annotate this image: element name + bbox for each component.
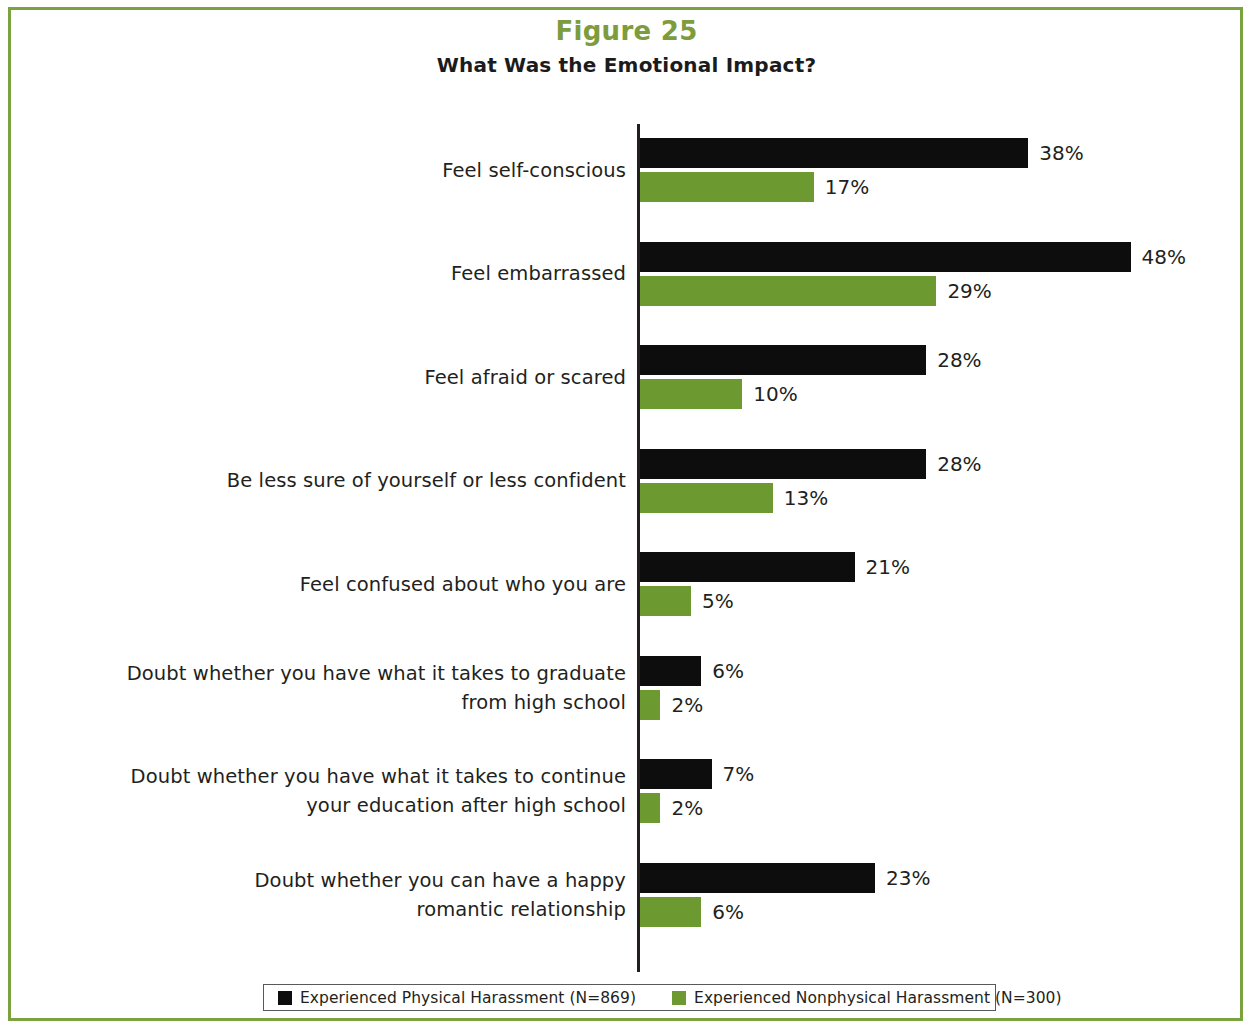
bar-value-label: 6% [712, 897, 744, 927]
bar-value-label: 21% [866, 552, 910, 582]
chart-legend: Experienced Physical Harassment (N=869) … [263, 984, 996, 1011]
bar-value-label: 28% [937, 345, 981, 375]
legend-label-physical: Experienced Physical Harassment (N=869) [300, 989, 636, 1007]
bar-group: Be less sure of yourself or less confide… [0, 448, 1253, 514]
bar-pair: 28%13% [640, 448, 1250, 514]
legend-item-nonphysical-harassment: Experienced Nonphysical Harassment (N=30… [672, 989, 1062, 1007]
bar-value-label: 48% [1142, 242, 1186, 272]
bar-group: Feel afraid or scared28%10% [0, 344, 1253, 410]
bar-physical: 6% [640, 656, 1250, 686]
bar-rect [640, 656, 701, 686]
bar-pair: 21%5% [640, 551, 1250, 617]
bar-rect [640, 242, 1131, 272]
bar-nonphysical: 2% [640, 690, 1250, 720]
bar-group: Doubt whether you have what it takes to … [0, 758, 1253, 824]
bar-group: Feel self-conscious38%17% [0, 137, 1253, 203]
bar-chart-plot-area: Feel self-conscious38%17%Feel embarrasse… [0, 0, 1253, 1031]
bar-rect [640, 379, 742, 409]
category-label-line: Feel embarrassed [451, 259, 626, 288]
bar-physical: 28% [640, 449, 1250, 479]
bar-nonphysical: 13% [640, 483, 1250, 513]
bar-rect [640, 897, 701, 927]
category-label: Feel embarrassed [106, 241, 626, 307]
bar-value-label: 2% [671, 690, 703, 720]
category-label: Feel self-conscious [106, 137, 626, 203]
bar-physical: 48% [640, 242, 1250, 272]
bar-rect [640, 276, 936, 306]
bar-value-label: 5% [702, 586, 734, 616]
bar-nonphysical: 10% [640, 379, 1250, 409]
bar-pair: 7%2% [640, 758, 1250, 824]
legend-item-physical-harassment: Experienced Physical Harassment (N=869) [278, 989, 636, 1007]
bar-group: Doubt whether you can have a happyromant… [0, 862, 1253, 928]
bar-rect [640, 759, 712, 789]
bar-nonphysical: 17% [640, 172, 1250, 202]
category-label-line: Doubt whether you have what it takes to … [127, 659, 626, 688]
bar-rect [640, 793, 660, 823]
bar-nonphysical: 2% [640, 793, 1250, 823]
bar-rect [640, 138, 1028, 168]
category-label-line: Feel self-conscious [442, 156, 626, 185]
category-label: Be less sure of yourself or less confide… [106, 448, 626, 514]
bar-value-label: 10% [753, 379, 797, 409]
bar-nonphysical: 6% [640, 897, 1250, 927]
bar-rect [640, 552, 855, 582]
category-label-line: your education after high school [306, 791, 626, 820]
category-label-line: from high school [462, 688, 626, 717]
category-label: Feel afraid or scared [106, 344, 626, 410]
bar-pair: 38%17% [640, 137, 1250, 203]
bar-value-label: 6% [712, 656, 744, 686]
category-label: Feel confused about who you are [106, 551, 626, 617]
bar-physical: 7% [640, 759, 1250, 789]
category-label-line: Feel confused about who you are [300, 570, 626, 599]
bar-physical: 23% [640, 863, 1250, 893]
bar-value-label: 17% [825, 172, 869, 202]
bar-physical: 28% [640, 345, 1250, 375]
bar-value-label: 29% [947, 276, 991, 306]
category-label-line: romantic relationship [416, 895, 626, 924]
bar-value-label: 2% [671, 793, 703, 823]
bar-value-label: 7% [723, 759, 755, 789]
bar-pair: 6%2% [640, 655, 1250, 721]
bar-value-label: 23% [886, 863, 930, 893]
category-label-line: Feel afraid or scared [424, 363, 626, 392]
bar-physical: 38% [640, 138, 1250, 168]
category-label: Doubt whether you have what it takes to … [106, 655, 626, 721]
bar-rect [640, 483, 773, 513]
bar-rect [640, 690, 660, 720]
bar-nonphysical: 5% [640, 586, 1250, 616]
bar-group: Feel embarrassed48%29% [0, 241, 1253, 307]
bar-nonphysical: 29% [640, 276, 1250, 306]
bar-physical: 21% [640, 552, 1250, 582]
bar-rect [640, 586, 691, 616]
bar-value-label: 13% [784, 483, 828, 513]
green-square-icon [672, 991, 686, 1005]
category-label: Doubt whether you can have a happyromant… [106, 862, 626, 928]
bar-rect [640, 863, 875, 893]
bar-rect [640, 345, 926, 375]
category-label-line: Doubt whether you have what it takes to … [131, 762, 626, 791]
bar-group: Doubt whether you have what it takes to … [0, 655, 1253, 721]
bar-rect [640, 449, 926, 479]
category-label-line: Doubt whether you can have a happy [254, 866, 626, 895]
legend-label-nonphysical: Experienced Nonphysical Harassment (N=30… [694, 989, 1062, 1007]
bar-pair: 23%6% [640, 862, 1250, 928]
bar-rect [640, 172, 814, 202]
category-label-line: Be less sure of yourself or less confide… [227, 466, 626, 495]
bar-pair: 28%10% [640, 344, 1250, 410]
black-square-icon [278, 991, 292, 1005]
bar-pair: 48%29% [640, 241, 1250, 307]
category-label: Doubt whether you have what it takes to … [106, 758, 626, 824]
bar-value-label: 28% [937, 449, 981, 479]
bar-value-label: 38% [1039, 138, 1083, 168]
bar-group: Feel confused about who you are21%5% [0, 551, 1253, 617]
